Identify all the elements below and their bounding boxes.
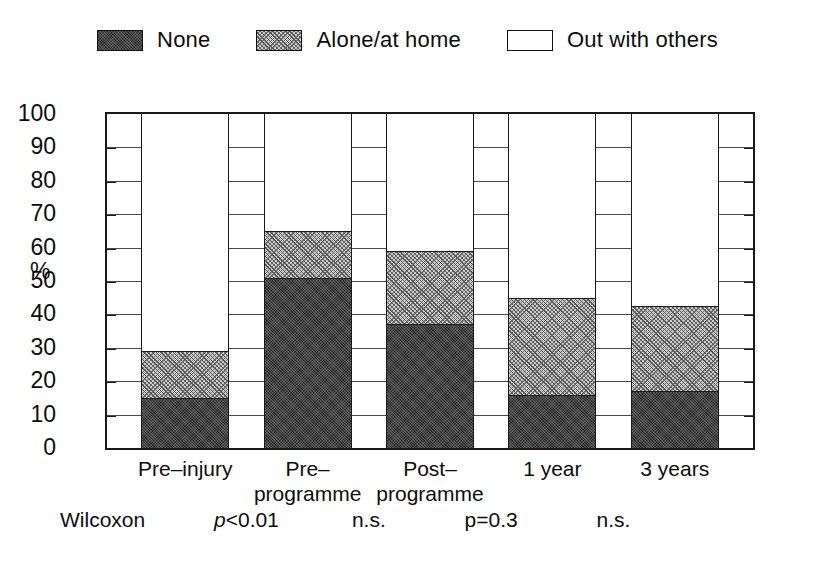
- gridline-tick: [474, 314, 508, 315]
- gridline-tick: [107, 281, 141, 282]
- x-label-line: 3 years: [595, 456, 755, 481]
- gridline-tick: [596, 314, 630, 315]
- stat-value-3: p=0.3: [421, 508, 561, 532]
- gridline-tick: [596, 415, 630, 416]
- bar-segment-out: [509, 114, 595, 298]
- x-category-label-5: 3 years: [595, 456, 755, 481]
- gridline-tick: [352, 348, 386, 349]
- gridline-tick: [596, 181, 630, 182]
- gridline-tick: [229, 381, 263, 382]
- gridline-tick: [596, 248, 630, 249]
- gridline-tick: [596, 348, 630, 349]
- gridline-tick: [596, 281, 630, 282]
- gridline-tick: [719, 214, 753, 215]
- gridline-tick: [474, 214, 508, 215]
- hatched-swatch: [256, 30, 302, 51]
- gridline-tick: [107, 214, 141, 215]
- gridline-tick: [474, 415, 508, 416]
- stats-row-title: Wilcoxon: [60, 508, 145, 532]
- gridline-tick: [229, 214, 263, 215]
- bar-segment-alone: [387, 251, 473, 324]
- y-tick-label: 0: [0, 436, 56, 459]
- y-tick-label: 50: [0, 269, 56, 292]
- bar-segment-none: [632, 391, 718, 448]
- gridline-tick: [474, 248, 508, 249]
- gridline-tick: [719, 248, 753, 249]
- legend-label-out: Out with others: [567, 27, 718, 53]
- plot-area: [105, 112, 755, 450]
- gridline-tick: [107, 314, 141, 315]
- bar-segment-none: [142, 398, 228, 448]
- gridline-tick: [229, 181, 263, 182]
- stat-value-1: p<0.01: [176, 508, 316, 532]
- gridline-ladder: [352, 114, 386, 448]
- y-tick-label: 90: [0, 135, 56, 158]
- gridline-tick: [107, 248, 141, 249]
- gridline-tick: [719, 314, 753, 315]
- y-tick-label: 40: [0, 302, 56, 325]
- gridline-tick: [474, 381, 508, 382]
- gridline-tick: [229, 348, 263, 349]
- x-label-line: programme: [350, 481, 510, 506]
- y-tick-label: 10: [0, 403, 56, 426]
- stat-value-2: n.s.: [299, 508, 439, 532]
- gridline-tick: [474, 147, 508, 148]
- bar-segment-none: [387, 324, 473, 448]
- stat-p-value: <0.01: [226, 508, 279, 531]
- gridline-tick: [719, 348, 753, 349]
- bar-2: [264, 114, 352, 448]
- bar-segment-out: [632, 114, 718, 306]
- gridline-tick: [352, 147, 386, 148]
- gridline-tick: [352, 181, 386, 182]
- legend-item-out: Out with others: [507, 27, 718, 53]
- bar-segment-none: [509, 395, 595, 448]
- gridline-tick: [229, 147, 263, 148]
- gridline-ladder: [474, 114, 508, 448]
- plot-inner: [107, 114, 753, 448]
- gridline-tick: [719, 181, 753, 182]
- gridline-tick: [719, 147, 753, 148]
- bar-segment-none: [265, 278, 351, 448]
- gridline-tick: [229, 314, 263, 315]
- gridline-tick: [719, 381, 753, 382]
- gridline-tick: [474, 348, 508, 349]
- gridline-tick: [107, 381, 141, 382]
- gridline-tick: [107, 415, 141, 416]
- y-tick-label: 60: [0, 236, 56, 259]
- gridline-ladder: [107, 114, 141, 448]
- gridline-ladder: [596, 114, 630, 448]
- gridline-tick: [596, 147, 630, 148]
- stat-value-4: n.s.: [544, 508, 684, 532]
- bar-3: [386, 114, 474, 448]
- legend-item-none: None: [97, 27, 210, 53]
- gridline-tick: [107, 348, 141, 349]
- gridline-ladder: [229, 114, 263, 448]
- gridline-tick: [596, 381, 630, 382]
- gridline-tick: [352, 314, 386, 315]
- gridline-tick: [352, 281, 386, 282]
- white-swatch: [507, 30, 553, 51]
- gridline-tick: [229, 415, 263, 416]
- bar-segment-alone: [632, 306, 718, 391]
- gridline-tick: [352, 381, 386, 382]
- bar-1: [141, 114, 229, 448]
- y-tick-label: 70: [0, 202, 56, 225]
- chart-legend: None Alone/at home Out with others: [0, 22, 815, 58]
- gridline-tick: [474, 281, 508, 282]
- legend-item-alone: Alone/at home: [256, 27, 460, 53]
- legend-label-none: None: [157, 27, 210, 53]
- gridline-tick: [352, 214, 386, 215]
- y-tick-label: 20: [0, 369, 56, 392]
- gridline-tick: [229, 248, 263, 249]
- gridline-tick: [352, 415, 386, 416]
- y-tick-label: 80: [0, 169, 56, 192]
- gridline-tick: [719, 281, 753, 282]
- dark-dotted-swatch: [97, 30, 143, 51]
- gridline-ladder: [719, 114, 753, 448]
- y-tick-label: 100: [0, 102, 56, 125]
- bar-segment-out: [265, 114, 351, 231]
- bar-5: [631, 114, 719, 448]
- gridline-tick: [107, 147, 141, 148]
- legend-label-alone: Alone/at home: [316, 27, 460, 53]
- bar-segment-out: [387, 114, 473, 251]
